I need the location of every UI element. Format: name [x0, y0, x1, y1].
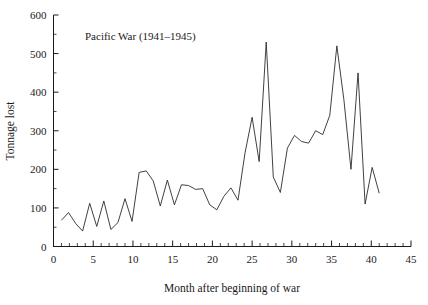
x-tick-label: 45	[406, 253, 418, 265]
plot-annotation: Pacific War (1941–1945)	[85, 30, 196, 43]
x-tick-label: 0	[51, 253, 57, 265]
y-tick-label: 0	[41, 241, 47, 253]
chart-figure: 0100200300400500600 051015202530354045 P…	[0, 0, 428, 305]
y-tick-label: 300	[30, 125, 47, 137]
x-tick-label: 35	[326, 253, 338, 265]
x-tick-label: 30	[286, 253, 298, 265]
y-axis-title: Tonnage lost	[4, 101, 17, 161]
x-tick-label: 25	[247, 253, 259, 265]
x-tick-label: 20	[207, 253, 219, 265]
line-chart-canvas: 0100200300400500600 051015202530354045 P…	[0, 0, 428, 305]
y-tick-label: 200	[30, 163, 47, 175]
x-tick-label: 40	[366, 253, 378, 265]
y-tick-label: 100	[30, 202, 47, 214]
y-tick-label: 400	[30, 86, 47, 98]
y-tick-label: 600	[30, 9, 47, 21]
x-axis-title: Month after beginning of war	[164, 282, 300, 295]
x-tick-label: 10	[127, 253, 139, 265]
x-tick-label: 15	[167, 253, 179, 265]
x-tick-label: 5	[90, 253, 96, 265]
y-tick-label: 500	[30, 48, 47, 60]
